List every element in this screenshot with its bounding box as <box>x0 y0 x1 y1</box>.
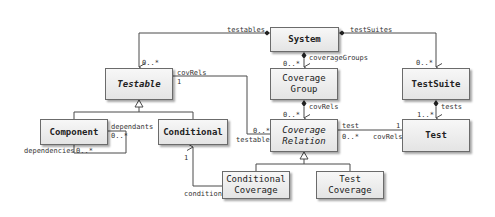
multiplicity-condition: 1 <box>184 154 188 162</box>
class-name: Conditional <box>163 127 223 138</box>
class-test[interactable]: Test <box>402 119 470 152</box>
multiplicity-testable-end: 0..* <box>253 127 270 135</box>
class-conditional-coverage[interactable]: Conditional Coverage <box>222 171 290 199</box>
class-name-line: Coverage <box>282 73 325 84</box>
generalization-arrow-coverage-relation <box>300 152 308 159</box>
multiplicity-test-end: 0..* <box>342 133 359 141</box>
class-test-suite[interactable]: TestSuite <box>402 68 470 100</box>
multiplicity-group-covrels: 0..* <box>283 111 300 119</box>
multiplicity-dependencies: 0..* <box>76 147 93 155</box>
class-name-line: Coverage <box>282 125 325 136</box>
composition-diamond-covrels <box>302 100 307 107</box>
role-label-dependants: dependants <box>111 123 153 131</box>
class-name: Testable <box>117 79 160 90</box>
class-name-line: Coverage <box>226 185 286 196</box>
role-label-test-covrels: covRels <box>373 133 403 141</box>
class-component[interactable]: Component <box>40 119 108 145</box>
class-name: System <box>288 34 321 45</box>
multiplicity-tests: 1..* <box>417 111 434 119</box>
class-name-line: Coverage <box>328 185 371 196</box>
multiplicity-coveragegroups: 0..* <box>283 60 300 68</box>
multiplicity-dependants: 0..* <box>111 132 128 140</box>
role-label-condition: condition <box>184 190 222 198</box>
class-name: Component <box>50 127 99 138</box>
class-name: TestSuite <box>412 79 461 90</box>
class-name-line: Group <box>282 84 325 95</box>
multiplicity-testables: 0..* <box>142 59 159 67</box>
multiplicity-test-covrels: 1 <box>396 122 400 130</box>
role-label-tests: tests <box>441 103 462 111</box>
role-label-dependencies: dependencies <box>24 147 75 155</box>
class-testable[interactable]: Testable <box>105 68 173 100</box>
multiplicity-testable-covrels: 1 <box>177 78 181 86</box>
role-label-testable-covrels: covRels <box>177 69 207 77</box>
class-coverage-relation[interactable]: Coverage Relation <box>270 119 338 152</box>
class-name-line: Test <box>328 174 371 185</box>
role-label-testables: testables <box>227 26 265 34</box>
composition-diamond-tests <box>434 100 439 107</box>
class-name: Test <box>425 130 447 141</box>
role-label-test-end: test <box>342 122 359 130</box>
composition-diamond-coveragegroups <box>302 52 307 59</box>
composition-diamond-testsuites <box>339 31 345 36</box>
class-name-line: Relation <box>282 136 325 147</box>
generalization-arrow-testable <box>135 100 143 107</box>
multiplicity-testsuites: 0..* <box>416 59 433 67</box>
role-label-testable-end: testable <box>236 136 270 144</box>
class-test-coverage[interactable]: Test Coverage <box>316 171 384 199</box>
role-label-group-covrels: covRels <box>309 103 339 111</box>
class-coverage-group[interactable]: Coverage Group <box>270 68 338 100</box>
uml-class-diagram: System Testable Coverage Group TestSuite… <box>0 0 495 217</box>
role-label-coveragegroups: coverageGroups <box>309 54 368 62</box>
class-system[interactable]: System <box>270 27 339 52</box>
role-label-testsuites: testSuites <box>350 26 392 34</box>
class-conditional[interactable]: Conditional <box>158 119 228 145</box>
class-name-line: Conditional <box>226 174 286 185</box>
